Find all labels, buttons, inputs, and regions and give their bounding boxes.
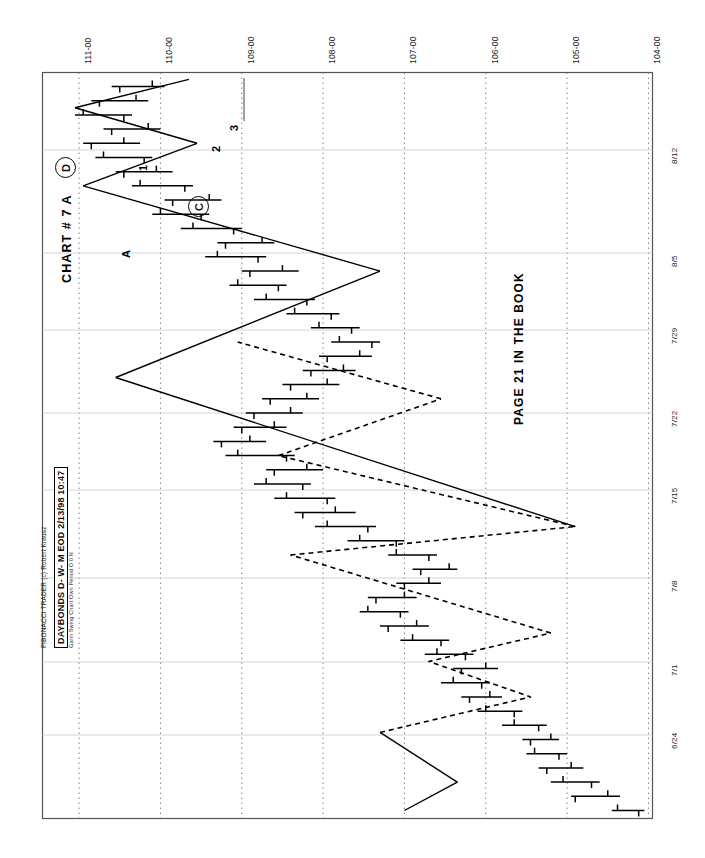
page-reference-note: PAGE 21 IN THE BOOK [512, 272, 526, 425]
plot-frame [43, 73, 653, 819]
gann-swing-solid [75, 79, 575, 810]
date-tick-6-24: 6/24 [670, 733, 679, 749]
date-tick-7-15: 7/15 [670, 488, 679, 504]
price-gridlines [79, 73, 648, 819]
date-tick-7-29: 7/29 [670, 328, 679, 344]
date-gridlines [43, 150, 653, 735]
marker-d: D [55, 157, 76, 178]
price-tick-108-00: 108-00 [327, 36, 337, 64]
swing-point-2: 2 [210, 146, 222, 152]
symbol-title-box[interactable]: DAYBONDS D- W- M EOD 2/13/98 10:47 [54, 467, 68, 648]
date-tick-8-5: 8/5 [670, 255, 679, 267]
marker-c-label: C [192, 203, 204, 211]
price-tick-111-00: 111-00 [83, 38, 93, 64]
swing-point-3: 3 [228, 125, 240, 131]
page-title: CHART # 7 A [60, 194, 74, 283]
marker-d-label: D [59, 164, 71, 172]
study-subtitle: Gann Swing Chart Own Period O 0 N [68, 552, 74, 648]
date-tick-7-8: 7/8 [670, 580, 679, 592]
date-tick-7-22: 7/22 [670, 411, 679, 427]
price-tick-110-00: 110-00 [164, 37, 174, 64]
marker-a: A [120, 250, 132, 258]
price-tick-106-00: 106-00 [490, 36, 500, 64]
symbol-title-text: DAYBONDS D- W- M EOD 2/13/98 10:47 [56, 471, 66, 644]
chart-canvas [0, 0, 705, 858]
swing-point-1: 1 [137, 165, 149, 171]
marker-c: C [188, 196, 209, 217]
price-tick-107-00: 107-00 [408, 36, 418, 64]
date-tick-8-12: 8/12 [670, 148, 679, 164]
vendor-credit-line: FIBONACCI TRADER (c) Robert Krausz [40, 526, 47, 648]
price-tick-104-00: 104-00 [652, 36, 662, 64]
price-tick-109-00: 109-00 [246, 36, 256, 64]
price-tick-105-00: 105-00 [571, 36, 581, 64]
date-tick-7-1: 7/1 [670, 664, 679, 676]
